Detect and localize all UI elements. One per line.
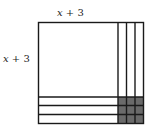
top-dimension-label: x + 3 [57,7,84,18]
unit-tiles [118,97,144,123]
algebra-tile-square-diagram: x + 3 x + 3 [0,0,152,132]
side-dimension-label: x + 3 [3,53,30,64]
